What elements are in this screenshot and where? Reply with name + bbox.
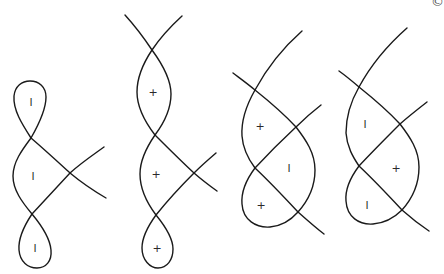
- figure-3-region-label: l: [287, 162, 290, 175]
- figure-4-region-label: +: [391, 162, 400, 175]
- figure-2: [125, 15, 217, 268]
- region-labels: lll++++l+l+l: [29, 86, 400, 255]
- figure-1-strand-b: [32, 147, 104, 214]
- figure-3-region-label: +: [255, 120, 264, 133]
- figure-2-strand-a: [155, 135, 217, 191]
- figure-3: [233, 31, 324, 234]
- figure-1-region-label: l: [33, 242, 36, 255]
- figure-2-region-label: +: [152, 242, 161, 255]
- figure-4-top-arm: [359, 28, 407, 87]
- figure-4-diagonal-1: [359, 87, 419, 210]
- figure-4-region-label: l: [363, 118, 366, 131]
- figure-4-left-arm: [339, 71, 359, 87]
- figure-3-diagonal-2: [255, 105, 321, 168]
- figure-1-region-label: l: [31, 170, 34, 183]
- figure-2-top-arm-right: [152, 16, 182, 50]
- figure-3-left-arm: [233, 73, 255, 90]
- figure-1-top-loop: [14, 81, 46, 138]
- figure-2-top-arm-left: [125, 15, 152, 50]
- figure-4-lower-loop: [346, 166, 402, 224]
- figure-3-lower-loop: [242, 168, 298, 227]
- figure-4-region-label: l: [365, 199, 368, 212]
- figure-4-outer-left: [346, 87, 359, 166]
- figure-4: [339, 28, 429, 231]
- figure-3-outer-left: [242, 90, 255, 168]
- figure-4-diagonal-2: [359, 102, 427, 166]
- figure-2-region-label: +: [148, 86, 157, 99]
- figure-3-top-arm: [255, 31, 302, 90]
- figure-1: [13, 81, 106, 268]
- corner-mark: ©: [431, 0, 444, 9]
- figure-3-region-label: +: [256, 199, 265, 212]
- figure-1-left-strand: [13, 138, 32, 214]
- figure-1-strand-a: [31, 138, 106, 198]
- figure-1-region-label: l: [29, 96, 32, 109]
- figure-3-diagonal-1: [255, 90, 315, 212]
- figure-2-region-label: +: [151, 168, 160, 181]
